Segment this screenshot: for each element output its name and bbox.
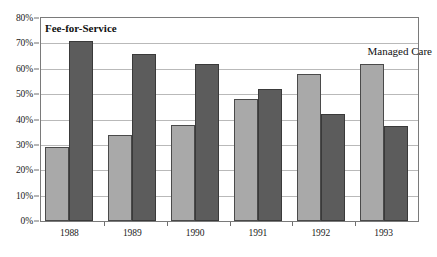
- x-tick-label: 1991: [249, 228, 268, 238]
- bar-1993-managed-care[interactable]: [384, 126, 408, 221]
- x-tick-mark: [167, 222, 168, 226]
- y-tick-label: 20%: [16, 165, 33, 175]
- x-tick-mark: [355, 222, 356, 226]
- bar-1990-fee-for-service[interactable]: [171, 125, 195, 221]
- x-tick-label: 1992: [311, 228, 330, 238]
- bar-group: [297, 18, 345, 221]
- series-annotation-managed-care: Managed Care: [368, 45, 432, 57]
- bar-group: [171, 18, 219, 221]
- bar-1992-managed-care[interactable]: [321, 114, 345, 221]
- bar-group: [234, 18, 282, 221]
- y-tick-mark: [34, 221, 39, 222]
- y-tick-mark: [34, 119, 39, 120]
- x-tick-label: 1989: [123, 228, 142, 238]
- y-axis: 0%10%20%30%40%50%60%70%80%: [0, 17, 38, 222]
- y-tick-mark: [34, 94, 39, 95]
- bar-1993-fee-for-service[interactable]: [360, 64, 384, 221]
- x-tick-label: 1993: [374, 228, 393, 238]
- bar-1990-managed-care[interactable]: [195, 64, 219, 221]
- y-tick-mark: [34, 144, 39, 145]
- y-tick-label: 60%: [16, 64, 33, 74]
- bar-1991-fee-for-service[interactable]: [234, 99, 258, 221]
- bar-group: [45, 18, 93, 221]
- bars-layer: [41, 18, 418, 221]
- y-tick-label: 0%: [21, 216, 33, 226]
- y-tick-mark: [34, 18, 39, 19]
- bar-1989-fee-for-service[interactable]: [108, 135, 132, 221]
- bar-1988-managed-care[interactable]: [69, 41, 93, 221]
- bar-group: [108, 18, 156, 221]
- bar-chart: 0%10%20%30%40%50%60%70%80% 1988198919901…: [0, 0, 437, 257]
- bar-1992-fee-for-service[interactable]: [297, 74, 321, 221]
- x-axis: 198819891990199119921993: [41, 228, 418, 244]
- x-tick-mark: [230, 222, 231, 226]
- y-tick-label: 80%: [16, 13, 33, 23]
- y-tick-label: 10%: [16, 191, 33, 201]
- y-tick-mark: [34, 43, 39, 44]
- y-tick-label: 30%: [16, 140, 33, 150]
- x-tick-label: 1988: [60, 228, 79, 238]
- bar-1989-managed-care[interactable]: [132, 54, 156, 221]
- bar-1991-managed-care[interactable]: [258, 89, 282, 221]
- x-tick-label: 1990: [186, 228, 205, 238]
- x-tick-mark: [292, 222, 293, 226]
- y-tick-label: 50%: [16, 89, 33, 99]
- x-tick-mark: [104, 222, 105, 226]
- y-tick-label: 40%: [16, 115, 33, 125]
- y-tick-mark: [34, 68, 39, 69]
- y-tick-mark: [34, 170, 39, 171]
- y-tick-mark: [34, 195, 39, 196]
- series-annotation-fee-for-service: Fee-for-Service: [45, 22, 117, 34]
- y-tick-label: 70%: [16, 38, 33, 48]
- bar-1988-fee-for-service[interactable]: [45, 147, 69, 221]
